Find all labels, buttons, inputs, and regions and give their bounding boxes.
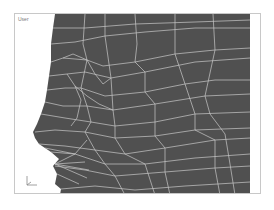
head-mesh-wireframe	[15, 14, 261, 194]
viewport-user[interactable]: User	[14, 13, 261, 194]
axis-tripod-icon	[25, 175, 39, 187]
viewport-label: User	[18, 16, 29, 22]
